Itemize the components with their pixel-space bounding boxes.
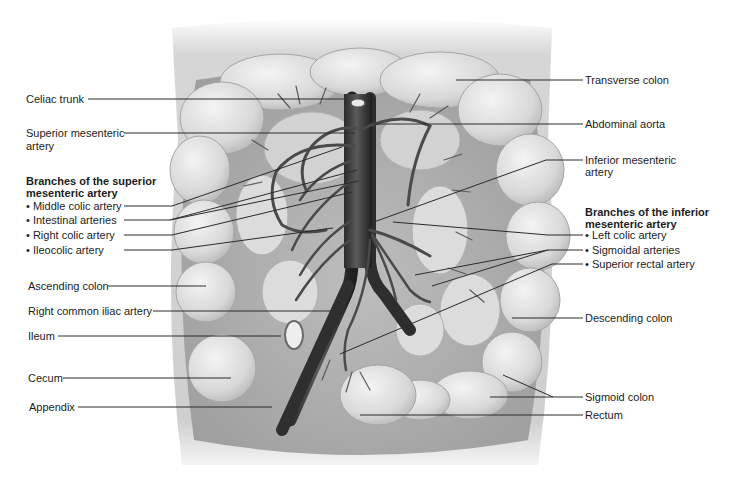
- label-sigmoid-colon: Sigmoid colon: [585, 391, 654, 404]
- label-rectum: Rectum: [585, 409, 623, 422]
- label-ileum: Ileum: [28, 330, 55, 343]
- label-appendix: Appendix: [29, 401, 75, 414]
- label-ileocolic-artery: Ileocolic artery: [26, 244, 104, 257]
- label-transverse-colon: Transverse colon: [585, 74, 669, 87]
- label-intestinal-arteries: Intestinal arteries: [26, 214, 117, 227]
- label-superior-mesenteric-artery: Superior mesenteric: [26, 127, 124, 140]
- label-sigmoidal-arteries: Sigmoidal arteries: [585, 244, 680, 257]
- label-celiac-trunk: Celiac trunk: [26, 93, 84, 106]
- label-middle-colic-artery: Middle colic artery: [26, 200, 122, 213]
- label-inferior-mesenteric-artery-line2: artery: [585, 166, 613, 179]
- label-descending-colon: Descending colon: [585, 312, 672, 325]
- sma-branches-header-line2: mesenteric artery: [26, 187, 118, 200]
- label-superior-mesenteric-artery-line2: artery: [26, 140, 54, 153]
- label-abdominal-aorta: Abdominal aorta: [585, 118, 665, 131]
- label-superior-rectal-artery: Superior rectal artery: [585, 258, 695, 271]
- label-right-common-iliac-artery: Right common iliac artery: [28, 305, 152, 318]
- label-right-colic-artery: Right colic artery: [26, 229, 115, 242]
- label-cecum: Cecum: [28, 372, 63, 385]
- label-ascending-colon: Ascending colon: [28, 280, 109, 293]
- label-left-colic-artery: Left colic artery: [585, 229, 667, 242]
